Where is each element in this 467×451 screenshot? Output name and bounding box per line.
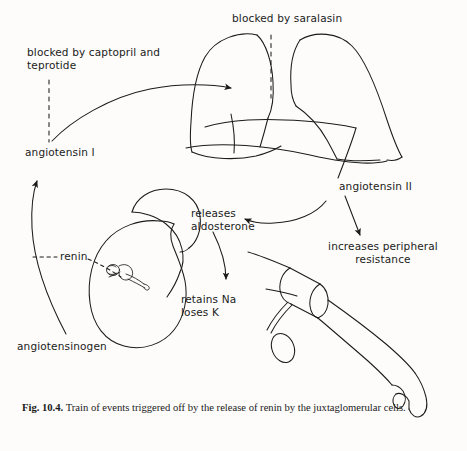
label-angiotensin-i: angiotensin I — [25, 146, 95, 159]
arrow-angiotensin-ii-to-resistance — [345, 196, 360, 235]
lungs-illustration — [186, 34, 402, 163]
arrow-angiotensin-i-to-lungs — [52, 85, 231, 141]
arrow-aldosterone-to-retains-na — [213, 232, 226, 279]
arrow-angiotensin-ii-to-aldosterone — [245, 201, 326, 223]
label-renin: renin — [60, 250, 88, 263]
adrenal-gland-illustration — [132, 189, 200, 297]
label-increases-peripheral-resistance: increases peripheral resistance — [320, 240, 446, 266]
figure-page: blocked by captopril and teprotide angio… — [0, 0, 467, 451]
label-blocked-by-saralasin: blocked by saralasin — [232, 12, 342, 25]
angiotensin-ii-leader-line — [338, 128, 356, 178]
juxtaglomerular-cells-illustration — [107, 265, 150, 291]
label-angiotensin-ii: angiotensin II — [339, 180, 412, 193]
label-blocked-by-captopril: blocked by captopril and teprotide — [27, 46, 160, 72]
label-retains-na-loses-k: retains Na loses K — [181, 293, 236, 319]
arm-with-blood-pressure-cuff-illustration — [248, 252, 427, 417]
figure-caption: Fig. 10.4. Train of events triggered off… — [22, 401, 422, 416]
label-angiotensinogen: angiotensinogen — [17, 340, 107, 353]
figure-number: Fig. 10.4. — [22, 402, 63, 413]
figure-caption-text: Train of events triggered off by the rel… — [66, 402, 406, 413]
label-releases-aldosterone: releases aldosterone — [191, 207, 255, 233]
